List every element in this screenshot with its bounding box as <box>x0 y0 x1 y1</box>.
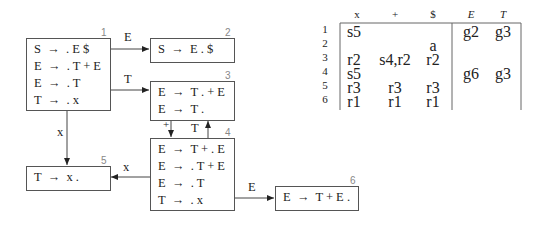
edge-label-1-5: x <box>57 125 63 140</box>
state-rule: E → T + E . <box>283 189 358 206</box>
table-cell: r1 <box>413 93 453 111</box>
state-rule: E → . T <box>158 175 234 192</box>
table-row-state: 3 <box>318 51 332 63</box>
state-4-number: 4 <box>225 127 231 138</box>
table-cell: s4,r2 <box>375 51 415 69</box>
table-row-state: 1 <box>318 23 332 35</box>
state-1-number: 1 <box>101 27 107 38</box>
state-6-number: 6 <box>350 175 356 186</box>
table-row-state: 4 <box>318 65 332 77</box>
state-rule: S → . E $ <box>34 41 110 58</box>
table-header-dollar: $ <box>413 8 453 20</box>
table-cell: g3 <box>483 65 523 83</box>
edge-label-1-3: T <box>124 72 132 87</box>
state-rule: E → T . <box>158 101 234 118</box>
state-1-box: S → . E $ E → . T + E E → . T T → . x <box>26 38 111 111</box>
table-row-state: 6 <box>318 93 332 105</box>
state-rule: T → x . <box>34 169 110 186</box>
table-header-x: x <box>337 8 377 20</box>
table-cell: r2 <box>413 51 453 69</box>
state-5-box: T → x . <box>26 166 111 191</box>
table-cell: r1 <box>334 93 374 111</box>
edge-label-4-6: E <box>248 180 256 195</box>
state-rule: T → . x <box>158 192 234 209</box>
state-3-box: E → T . + E E → T . <box>150 81 235 121</box>
state-4-box: E → T + . E E → . T + E E → . T T → . x <box>150 138 235 211</box>
state-rule: E → . T <box>34 75 110 92</box>
state-rule: T → . x <box>34 92 110 109</box>
table-row-state: 2 <box>318 37 332 49</box>
state-rule: S → E . $ <box>158 41 234 58</box>
table-row-state: 5 <box>318 79 332 91</box>
state-5-number: 5 <box>101 155 107 166</box>
table-header-plus: + <box>375 8 415 20</box>
state-2-number: 2 <box>225 27 231 38</box>
state-rule: E → . T + E <box>34 58 110 75</box>
table-cell: r1 <box>375 93 415 111</box>
table-header-T: T <box>483 8 523 20</box>
table-cell: g3 <box>483 23 523 41</box>
state-6-box: E → T + E . <box>275 186 359 211</box>
state-3-number: 3 <box>225 70 231 81</box>
edge-label-4-5: x <box>123 160 129 175</box>
table-cell: s5 <box>334 23 374 41</box>
edge-label-4-3: T <box>191 121 199 136</box>
state-rule: E → T + . E <box>158 141 234 158</box>
edge-label-1-2: E <box>124 30 132 45</box>
state-rule: E → T . + E <box>158 84 234 101</box>
state-rule: E → . T + E <box>158 158 234 175</box>
state-2-box: S → E . $ <box>150 38 235 63</box>
